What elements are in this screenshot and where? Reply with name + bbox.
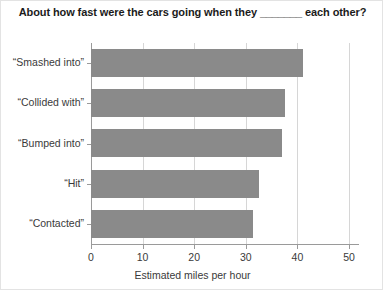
- x-axis-tick: [246, 244, 247, 249]
- x-axis-tick: [143, 244, 144, 249]
- x-axis-tick-label: 50: [329, 251, 369, 263]
- y-axis-tick: [87, 144, 91, 145]
- x-axis-tick-label: 20: [174, 251, 214, 263]
- x-axis-tick: [349, 244, 350, 249]
- y-axis-label: “Collided with”: [1, 96, 84, 108]
- bar: [91, 89, 285, 117]
- x-axis-tick: [194, 244, 195, 249]
- y-axis-label: “Bumped into”: [1, 137, 84, 149]
- chart-figure: About how fast were the cars going when …: [0, 0, 383, 290]
- bar: [91, 210, 253, 238]
- x-axis-tick-label: 40: [277, 251, 317, 263]
- y-axis-tick: [87, 103, 91, 104]
- x-axis-tick-label: 0: [71, 251, 111, 263]
- y-axis-label: “Smashed into”: [1, 56, 84, 68]
- x-axis-tick: [91, 244, 92, 249]
- y-axis-label: “Contacted”: [1, 217, 84, 229]
- y-axis-tick: [87, 63, 91, 64]
- x-axis-tick: [297, 244, 298, 249]
- y-axis-label: “Hit”: [1, 177, 84, 189]
- x-axis-tick-label: 30: [226, 251, 266, 263]
- y-axis-tick: [87, 184, 91, 185]
- bar: [91, 49, 303, 77]
- y-axis-tick: [87, 224, 91, 225]
- chart-title: About how fast were the cars going when …: [1, 6, 383, 18]
- x-axis-title: Estimated miles per hour: [1, 269, 383, 281]
- x-axis-tick-label: 10: [123, 251, 163, 263]
- bar: [91, 170, 259, 198]
- x-axis-line: [91, 244, 359, 245]
- bar: [91, 129, 282, 157]
